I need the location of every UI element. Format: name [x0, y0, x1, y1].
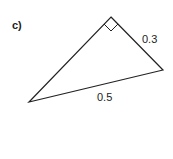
side-label-hypotenuse: 0.5	[97, 91, 112, 103]
right-angle-marker	[104, 24, 118, 31]
side-label-hypotenuse-adjacent: 0.3	[142, 33, 157, 45]
part-label: c)	[12, 19, 22, 31]
triangle	[29, 17, 163, 102]
right-triangle-diagram	[0, 0, 173, 159]
